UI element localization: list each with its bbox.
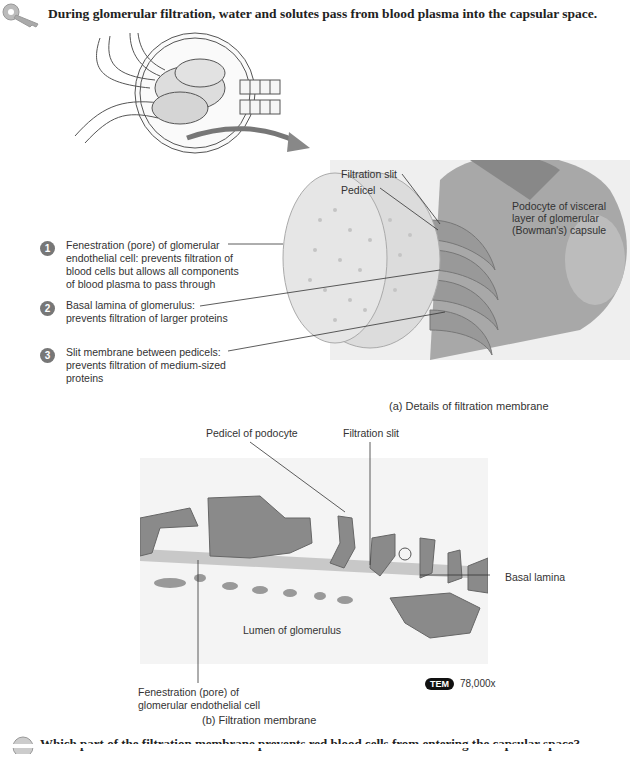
- label-1-line-3: blood cells but allows all components: [66, 265, 239, 278]
- podocyte-line-2: layer of glomerular: [512, 212, 606, 224]
- fenestration-b-line-1: Fenestration (pore) of: [138, 686, 260, 699]
- label-number-1: 1: [40, 241, 55, 256]
- fenestration-label-b: Fenestration (pore) of glomerular endoth…: [138, 686, 260, 712]
- podocyte-line-3: (Bowman's) capsule: [512, 224, 606, 236]
- fenestration-b-line-2: glomerular endothelial cell: [138, 699, 260, 712]
- label-1-line-4: of blood plasma to pass through: [66, 278, 239, 291]
- label-3-line-3: proteins: [66, 372, 226, 385]
- basal-lamina-description: Basal lamina of glomerulus: prevents fil…: [66, 299, 228, 325]
- filtration-slit-label-a: Filtration slit: [341, 168, 397, 181]
- label-1-line-1: Fenestration (pore) of glomerular: [66, 239, 239, 252]
- label-number-2: 2: [40, 301, 55, 316]
- podocyte-line-1: Podocyte of visceral: [512, 200, 606, 212]
- panel-b-leader-lines: [0, 420, 634, 720]
- fenestration-description: Fenestration (pore) of glomerular endoth…: [66, 239, 239, 291]
- label-3-line-1: Slit membrane between pedicels:: [66, 346, 226, 359]
- magnification-info: TEM 78,000x: [425, 677, 496, 691]
- label-1-line-2: endothelial cell: prevents filtration of: [66, 252, 239, 265]
- panel-b-caption: (b) Filtration membrane: [202, 714, 316, 726]
- label-2-line-1: Basal lamina of glomerulus:: [66, 299, 228, 312]
- pedicel-of-podocyte-label: Pedicel of podocyte: [206, 427, 298, 440]
- filtration-slit-label-b: Filtration slit: [343, 427, 399, 440]
- podocyte-label: Podocyte of visceral layer of glomerular…: [512, 200, 606, 236]
- basal-lamina-label: Basal lamina: [505, 571, 565, 584]
- lumen-label: Lumen of glomerulus: [243, 624, 341, 637]
- pedicel-label-a: Pedicel: [341, 184, 375, 197]
- page-clip: [0, 744, 634, 748]
- tem-badge: TEM: [425, 678, 454, 690]
- panel-a-caption: (a) Details of filtration membrane: [389, 400, 549, 412]
- label-number-3: 3: [40, 348, 55, 363]
- label-3-line-2: prevents filtration of medium-sized: [66, 359, 226, 372]
- magnification: 78,000x: [460, 678, 496, 689]
- label-2-line-2: prevents filtration of larger proteins: [66, 312, 228, 325]
- slit-membrane-description: Slit membrane between pedicels: prevents…: [66, 346, 226, 385]
